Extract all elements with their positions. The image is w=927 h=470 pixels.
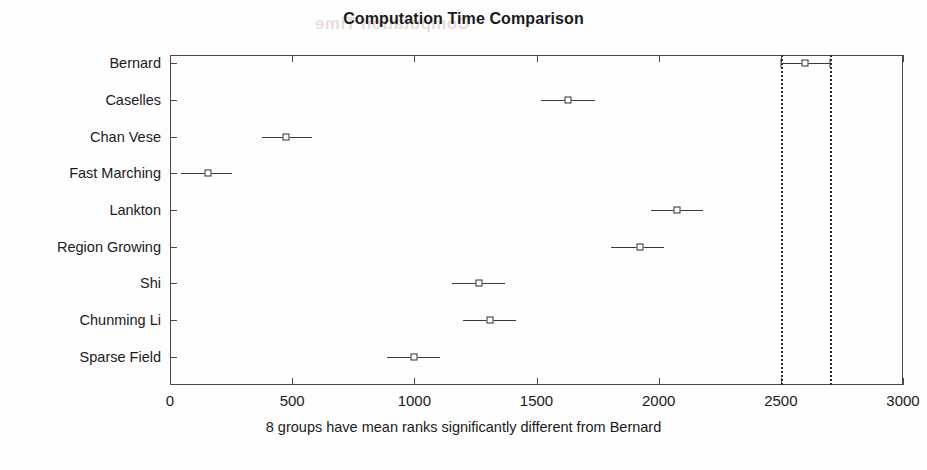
y-tick-label-region-growing: Region Growing xyxy=(57,239,170,255)
ci-cap-bernard xyxy=(829,59,830,68)
y-tick-mark xyxy=(170,137,177,138)
x-tick-label-500: 500 xyxy=(280,392,305,409)
ci-center-marker-chan-vese xyxy=(283,133,290,140)
y-tick-label-chan-vese: Chan Vese xyxy=(90,129,170,145)
x-tick-mark xyxy=(292,55,293,62)
x-tick-mark xyxy=(537,378,538,385)
y-tick-label-lankton: Lankton xyxy=(109,202,170,218)
x-tick-mark xyxy=(292,378,293,385)
x-tick-mark xyxy=(170,55,171,62)
ci-center-marker-shi xyxy=(476,280,483,287)
ci-center-marker-sparse-field xyxy=(411,353,418,360)
y-tick-label-sparse-field: Sparse Field xyxy=(80,349,170,365)
y-tick-mark xyxy=(170,247,177,248)
x-tick-mark xyxy=(537,55,538,62)
x-tick-label-2500: 2500 xyxy=(764,392,797,409)
reference-line-2700 xyxy=(830,55,832,385)
reference-line-2500 xyxy=(781,55,783,385)
chart-figure: Computation Time Computation Time Compar… xyxy=(0,0,927,470)
x-tick-label-1000: 1000 xyxy=(398,392,431,409)
y-tick-mark xyxy=(170,357,177,358)
ci-center-marker-fast-marching xyxy=(204,170,211,177)
ci-cap-bernard xyxy=(780,59,781,68)
x-tick-mark xyxy=(414,55,415,62)
plot-area xyxy=(170,55,903,385)
y-tick-mark xyxy=(170,283,177,284)
chart-title: Computation Time Comparison xyxy=(0,10,927,28)
y-tick-label-chunming-li: Chunming Li xyxy=(80,312,170,328)
y-axis-labels: BernardCasellesChan VeseFast MarchingLan… xyxy=(0,55,170,385)
x-tick-label-0: 0 xyxy=(166,392,174,409)
ci-center-marker-caselles xyxy=(565,97,572,104)
x-tick-mark xyxy=(903,55,904,62)
y-tick-mark xyxy=(170,100,177,101)
x-tick-label-3000: 3000 xyxy=(886,392,919,409)
x-axis-caption: 8 groups have mean ranks significantly d… xyxy=(0,419,927,435)
ci-center-marker-lankton xyxy=(673,207,680,214)
y-tick-label-caselles: Caselles xyxy=(105,92,170,108)
y-tick-label-shi: Shi xyxy=(140,275,170,291)
y-tick-label-bernard: Bernard xyxy=(109,55,170,71)
x-tick-mark xyxy=(414,378,415,385)
x-tick-mark xyxy=(903,378,904,385)
y-tick-mark xyxy=(170,210,177,211)
x-tick-mark xyxy=(659,55,660,62)
ci-center-marker-chunming-li xyxy=(487,317,494,324)
x-tick-mark xyxy=(170,378,171,385)
y-tick-mark xyxy=(170,173,177,174)
y-tick-label-fast-marching: Fast Marching xyxy=(69,165,170,181)
ci-center-marker-bernard xyxy=(802,60,809,67)
y-tick-mark xyxy=(170,320,177,321)
x-tick-label-1500: 1500 xyxy=(520,392,553,409)
y-tick-mark xyxy=(170,63,177,64)
x-tick-label-2000: 2000 xyxy=(642,392,675,409)
ci-center-marker-region-growing xyxy=(637,243,644,250)
x-tick-mark xyxy=(659,378,660,385)
